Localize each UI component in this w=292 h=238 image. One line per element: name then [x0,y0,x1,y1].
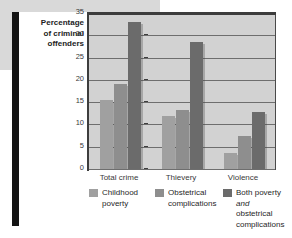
chart-legend: ChildhoodpovertyObstetricalcomplications… [89,188,285,236]
page-left-band-upper [0,0,12,70]
x-tick-label: Violence [212,173,274,182]
legend-label-line: poverty [102,199,138,210]
page-top-band-right [160,0,292,9]
bar[interactable] [114,84,127,169]
legend-swatch [155,189,164,197]
bar-wrapper [190,42,203,169]
bar-wrapper [176,110,189,169]
legend-label-line: and obstetrical [236,199,284,220]
bar-wrapper [224,153,237,169]
bar[interactable] [176,110,189,169]
gridline [89,169,275,170]
bar-wrapper [252,112,265,169]
legend-label: Childhoodpoverty [102,188,138,209]
chart-screenshot: Percentage of criminal offenders 0510152… [0,0,292,238]
bar-group [100,13,141,169]
x-axis-tick-labels: Total crimeThieveryViolence [88,173,276,185]
bar-wrapper [238,136,251,169]
legend-label-line: complications [168,199,216,210]
legend-label: Both povertyand obstetricalcomplications [236,188,284,230]
bar-group [224,13,265,169]
bar-series-group [89,13,275,169]
legend-label-line: Obstetrical [168,188,216,199]
bar-wrapper [162,116,175,169]
bar[interactable] [224,153,237,169]
bar[interactable] [100,100,113,169]
bar[interactable] [190,42,203,169]
legend-label-line: Both poverty [236,188,284,199]
y-axis-tick-labels: 05101520253035 [60,12,84,170]
y-tick-label: 5 [62,142,84,150]
y-tick-label: 20 [62,75,84,83]
y-tick-label: 30 [62,30,84,38]
x-tick-label: Total crime [88,173,150,182]
legend-label-line: complications [236,220,284,231]
y-tick-label: 25 [62,53,84,61]
bar-wrapper [128,22,141,169]
legend-label: Obstetricalcomplications [168,188,216,209]
bar[interactable] [238,136,251,169]
bar[interactable] [252,112,265,169]
y-tick-label: 10 [62,119,84,127]
bar[interactable] [162,116,175,169]
page-left-dark-rule [12,12,19,226]
page-left-band-lower [0,70,12,238]
bar[interactable] [128,22,141,169]
legend-swatch [223,189,232,197]
bar-wrapper [114,84,127,169]
bar-group [162,13,203,169]
legend-swatch [89,189,98,197]
y-tick-label: 0 [62,164,84,172]
bar-wrapper [100,100,113,169]
legend-label-line: Childhood [102,188,138,199]
y-tick-label: 35 [62,8,84,16]
x-tick-label: Thievery [150,173,212,182]
y-tick-label: 15 [62,97,84,105]
